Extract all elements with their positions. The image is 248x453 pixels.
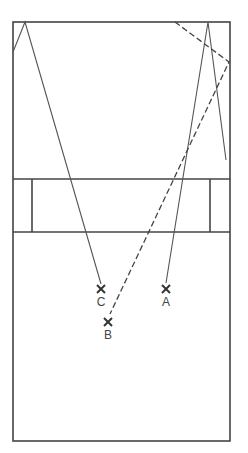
path-to-c (13, 22, 101, 284)
court-diagram: C A B (0, 0, 248, 453)
dashed-path-to-b (110, 22, 229, 314)
player-b-label: B (104, 328, 112, 342)
player-a-marker: A (162, 285, 170, 309)
player-b-marker: B (104, 318, 112, 342)
player-c-marker: C (97, 285, 106, 309)
player-a-label: A (162, 295, 170, 309)
player-c-label: C (97, 295, 106, 309)
path-to-a (166, 22, 226, 283)
